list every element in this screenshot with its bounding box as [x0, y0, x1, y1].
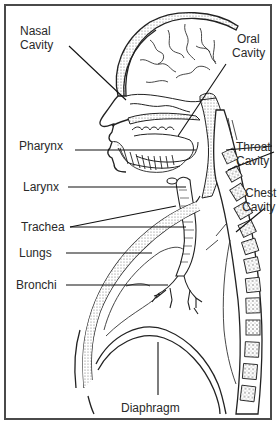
anatomy-illustration	[0, 0, 278, 426]
label-lungs: Lungs	[19, 246, 52, 260]
skull	[116, 13, 238, 96]
chest-wall	[75, 202, 200, 388]
face-profile	[100, 96, 134, 172]
neck-front	[196, 196, 200, 202]
label-trachea: Trachea	[21, 220, 65, 234]
label-line: Oral	[232, 32, 265, 46]
label-line: Throat	[236, 140, 271, 154]
label-diaphragm: Diaphragm	[121, 401, 180, 415]
label-bronchi: Bronchi	[16, 278, 57, 292]
bronchi	[152, 276, 202, 314]
lungs	[104, 224, 236, 384]
label-line: Cavity	[20, 38, 53, 52]
label-line: Cavity	[232, 46, 265, 60]
label-chest-cavity: Chest Cavity	[242, 186, 276, 214]
label-throat-cavity: Throat Cavity	[236, 140, 271, 168]
label-line: Chest	[242, 186, 276, 200]
label-line: Nasal	[20, 24, 53, 38]
label-line: Cavity	[242, 200, 276, 214]
label-oral-cavity: Oral Cavity	[232, 32, 265, 60]
label-larynx: Larynx	[23, 180, 59, 194]
label-pharynx: Pharynx	[19, 139, 63, 153]
label-nasal-cavity: Nasal Cavity	[20, 24, 53, 52]
label-line: Cavity	[236, 154, 271, 168]
